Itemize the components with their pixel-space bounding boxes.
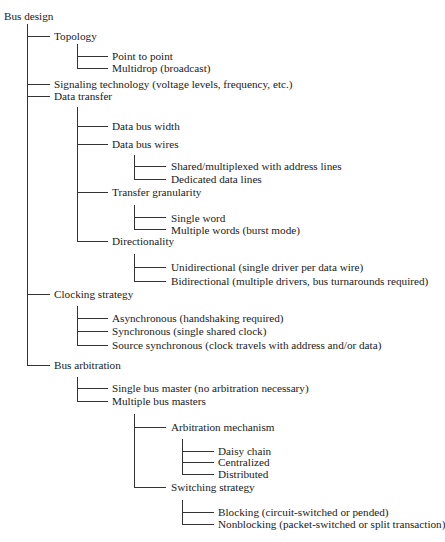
node-bus-arbitration: Bus arbitration	[54, 359, 121, 371]
connector	[77, 306, 78, 346]
node-multiple-words: Multiple words (burst mode)	[171, 224, 300, 236]
connector	[182, 462, 214, 463]
connector	[27, 84, 50, 85]
connector	[134, 487, 166, 488]
connector	[77, 192, 108, 193]
connector	[77, 126, 108, 127]
connector	[27, 294, 50, 295]
root-node: Bus design	[4, 10, 53, 22]
connector	[182, 512, 214, 513]
node-source-synchronous: Source synchronous (clock travels with a…	[112, 339, 381, 351]
node-unidirectional: Unidirectional (single driver per data w…	[171, 261, 363, 273]
connector	[134, 179, 166, 180]
node-data-bus-width: Data bus width	[112, 120, 180, 132]
node-single-word: Single word	[171, 212, 225, 224]
connector	[134, 229, 166, 230]
node-synchronous: Synchronous (single shared clock)	[112, 325, 266, 337]
node-distributed: Distributed	[218, 468, 268, 480]
connector	[77, 401, 108, 402]
node-centralized: Centralized	[218, 456, 270, 468]
connector	[182, 451, 214, 452]
connector	[27, 36, 50, 37]
node-asynchronous: Asynchronous (handshaking required)	[112, 312, 284, 324]
root-connector	[27, 24, 28, 366]
connector	[134, 267, 166, 268]
connector	[182, 524, 214, 525]
connector	[134, 217, 166, 218]
connector	[134, 155, 135, 180]
connector	[77, 68, 108, 69]
node-dedicated-lines: Dedicated data lines	[171, 173, 262, 185]
connector	[27, 96, 50, 97]
connector	[134, 414, 135, 488]
node-clocking-strategy: Clocking strategy	[54, 288, 133, 300]
connector	[134, 427, 166, 428]
connector	[182, 439, 183, 475]
node-topology: Topology	[54, 30, 97, 42]
connector	[134, 166, 166, 167]
node-signaling: Signaling technology (voltage levels, fr…	[54, 78, 292, 90]
node-multidrop: Multidrop (broadcast)	[112, 62, 211, 74]
connector	[77, 144, 108, 145]
connector	[77, 345, 108, 346]
connector	[77, 107, 78, 242]
connector	[27, 365, 50, 366]
connector	[77, 56, 108, 57]
connector	[77, 388, 108, 389]
connector	[134, 254, 135, 282]
node-directionality: Directionality	[112, 235, 174, 247]
node-data-bus-wires: Data bus wires	[112, 138, 179, 150]
connector	[77, 241, 108, 242]
node-data-transfer: Data transfer	[54, 90, 112, 102]
connector	[134, 281, 166, 282]
node-blocking: Blocking (circuit-switched or pended)	[218, 506, 389, 518]
connector	[182, 474, 214, 475]
node-multiple-bus-masters: Multiple bus masters	[112, 395, 206, 407]
node-nonblocking: Nonblocking (packet-switched or split tr…	[218, 518, 445, 530]
node-bidirectional: Bidirectional (multiple drivers, bus tur…	[171, 275, 428, 287]
connector	[77, 331, 108, 332]
node-arbitration-mechanism: Arbitration mechanism	[171, 421, 274, 433]
node-transfer-granularity: Transfer granularity	[112, 186, 201, 198]
node-switching-strategy: Switching strategy	[171, 481, 255, 493]
connector	[77, 318, 108, 319]
connector	[77, 377, 78, 402]
node-shared-multiplexed: Shared/multiplexed with address lines	[171, 160, 342, 172]
node-point-to-point: Point to point	[112, 50, 173, 62]
node-single-bus-master: Single bus master (no arbitration necess…	[112, 382, 309, 394]
